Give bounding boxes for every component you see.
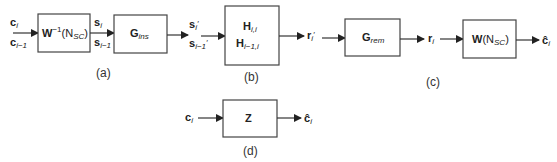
- signal-c-i-d: ci: [185, 111, 193, 125]
- caption-a: (a): [96, 66, 111, 80]
- block-h: [225, 6, 279, 65]
- caption-b: (b): [244, 70, 259, 84]
- caption-c: (c): [426, 75, 440, 89]
- caption-d: (d): [243, 144, 258, 158]
- signal-c-hat-i: ĉi: [542, 34, 550, 48]
- signal-s-i-minus-1-prime: si−1′: [189, 37, 208, 51]
- signal-r-i-prime: ri′: [307, 29, 315, 43]
- block-z-label: Z: [245, 112, 252, 124]
- signal-c-hat-i-d: ĉi: [304, 112, 312, 126]
- panel-d: ci Z ĉi (d): [185, 100, 312, 158]
- signal-s-i: si: [94, 16, 102, 30]
- block-diagram: ci ci−1 W−1(NSC) si si−1 Gins (a) si′ si…: [0, 0, 557, 162]
- signal-s-i-minus-1: si−1: [94, 36, 111, 50]
- panel-a: ci ci−1 W−1(NSC) si si−1 Gins (a): [10, 14, 188, 80]
- signal-r-i: ri: [428, 32, 434, 46]
- panel-b: si′ si−1′ Hi,i Hi−1,i ri′ (b): [189, 6, 315, 84]
- signal-c-i-minus-1: ci−1: [10, 36, 27, 50]
- signal-c-i: ci: [10, 16, 18, 30]
- panel-c: Grem ri W(NSC) ĉi (c): [322, 19, 550, 89]
- signal-s-i-prime: si′: [189, 18, 199, 32]
